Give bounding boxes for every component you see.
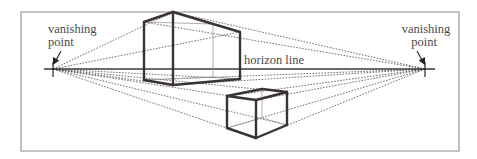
left-vp-arrowhead-icon (54, 58, 59, 64)
upper-box-edge (144, 12, 173, 22)
guide-line-left-vp (53, 32, 240, 69)
guide-line-left-vp (53, 69, 256, 100)
upper-box-edge (173, 12, 240, 32)
guide-line-left-vp (53, 69, 287, 92)
lower-box-edge (256, 92, 287, 100)
lower-box-edge (262, 89, 287, 92)
lower-box-hidden-edge (262, 118, 287, 125)
lower-box-edge (227, 128, 256, 138)
guide-line-left-vp (53, 69, 287, 125)
upper-box-hidden-edge (144, 77, 213, 80)
lower-box-edge (227, 96, 256, 100)
left-vp-label-line1: vanishing (48, 22, 97, 36)
upper-box-edge (144, 80, 173, 85)
lower-box-edge (227, 89, 262, 96)
perspective-diagram: vanishing point vanishing point horizon … (0, 0, 477, 159)
right-vp-label-line2: point (411, 35, 437, 49)
right-vp-arrowhead-icon (420, 58, 425, 64)
left-vp-label-line2: point (48, 35, 74, 49)
horizon-line-label: horizon line (244, 53, 305, 67)
guide-line-right-vp (256, 69, 425, 100)
right-vp-label-line1: vanishing (402, 22, 451, 36)
lower-box-edge (256, 125, 287, 138)
